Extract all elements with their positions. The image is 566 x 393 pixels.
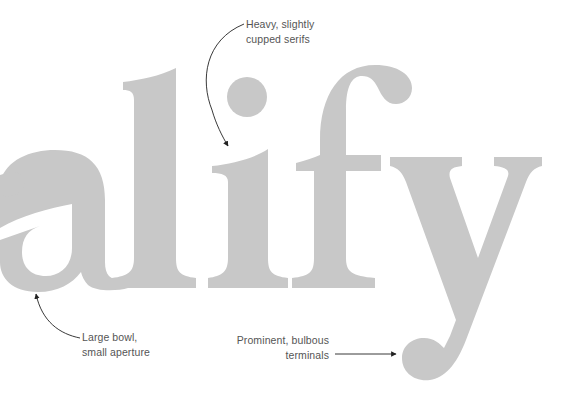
annotation-bowl-line-2: small aperture: [82, 345, 150, 360]
glyph-y: [390, 157, 542, 380]
annotation-serifs-line-1: Heavy, slightly: [246, 17, 314, 32]
annotation-serifs-line-2: cupped serifs: [246, 32, 314, 47]
annotation-bowl-line-1: Large bowl,: [82, 330, 150, 345]
typography-diagram: Heavy, slightly cupped serifs Large bowl…: [0, 0, 566, 393]
annotation-terminals-line-1: Prominent, bulbous: [229, 333, 329, 348]
glyph-i: [208, 77, 288, 288]
glyph-a: [0, 150, 128, 292]
annotation-bowl: Large bowl, small aperture: [82, 330, 150, 360]
annotation-serifs: Heavy, slightly cupped serifs: [246, 17, 314, 47]
annotation-terminals-line-2: terminals: [229, 348, 329, 363]
glyph-f: [292, 65, 412, 288]
annotation-terminals: Prominent, bulbous terminals: [229, 333, 329, 363]
glyph-l: [112, 68, 196, 288]
